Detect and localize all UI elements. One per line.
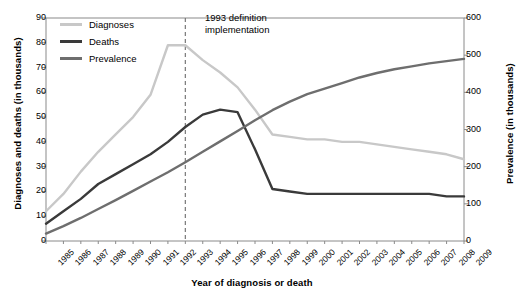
chart-container: 0102030405060708090 0100200300400500600 …: [0, 0, 520, 297]
x-axis-title: Year of diagnosis or death: [46, 277, 458, 288]
x-tick-2007: 2007: [439, 247, 459, 267]
x-tick-2008: 2008: [456, 247, 476, 267]
x-tick-1990: 1990: [143, 247, 163, 267]
x-tick-1999: 1999: [299, 247, 319, 267]
definition-change-annotation: 1993 definition implementation: [205, 12, 269, 35]
legend-item-deaths: Deaths: [60, 33, 137, 50]
legend-label-diagnoses: Diagnoses: [89, 19, 134, 30]
x-tick-2009: 2009: [474, 247, 494, 267]
x-tick-1996: 1996: [247, 247, 267, 267]
x-tick-2004: 2004: [386, 247, 406, 267]
x-tick-2006: 2006: [421, 247, 441, 267]
x-tick-1986: 1986: [73, 247, 93, 267]
x-tick-1993: 1993: [195, 247, 215, 267]
chart-legend: Diagnoses Deaths Prevalence: [60, 16, 137, 67]
y-axis-left-title: Diagnoses and deaths (in thousands): [12, 19, 23, 229]
x-tick-2002: 2002: [352, 247, 372, 267]
legend-swatch-prevalence: [60, 57, 82, 60]
legend-swatch-deaths: [60, 40, 82, 43]
x-tick-1987: 1987: [90, 247, 110, 267]
legend-swatch-diagnoses: [60, 23, 82, 26]
x-tick-1985: 1985: [56, 247, 76, 267]
x-tick-1995: 1995: [230, 247, 250, 267]
y-axis-right-title: Prevalence (in thousands): [504, 19, 515, 229]
x-tick-1997: 1997: [265, 247, 285, 267]
x-tick-1994: 1994: [212, 247, 232, 267]
legend-item-diagnoses: Diagnoses: [60, 16, 137, 33]
x-tick-1988: 1988: [108, 247, 128, 267]
legend-label-deaths: Deaths: [89, 36, 119, 47]
x-tick-1991: 1991: [160, 247, 180, 267]
x-tick-2005: 2005: [404, 247, 424, 267]
x-tick-2003: 2003: [369, 247, 389, 267]
legend-item-prevalence: Prevalence: [60, 50, 137, 67]
x-tick-1998: 1998: [282, 247, 302, 267]
annotation-line-2: implementation: [205, 24, 269, 36]
annotation-line-1: 1993 definition: [205, 12, 269, 24]
x-tick-1992: 1992: [177, 247, 197, 267]
legend-label-prevalence: Prevalence: [89, 53, 137, 64]
x-tick-1989: 1989: [125, 247, 145, 267]
x-tick-2000: 2000: [317, 247, 337, 267]
x-tick-2001: 2001: [334, 247, 354, 267]
